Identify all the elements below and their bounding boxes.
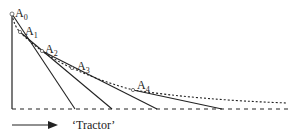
tractrix-curve-dotted [12,14,288,103]
direction-arrow-icon [12,121,58,129]
segment-a1 [20,32,112,109]
segment-a0 [12,14,75,109]
tractrix-diagram: A0 A1 A2 A3 A4 ‘Tractor’ [0,0,296,137]
point-a2 [40,49,43,52]
label-a4: A4 [137,78,150,94]
point-a4 [131,88,134,91]
point-a0 [10,12,14,16]
tractor-caption: ‘Tractor’ [72,118,115,132]
point-a3 [70,66,73,69]
label-a1: A1 [25,24,38,40]
point-a1 [18,30,21,33]
label-a3: A3 [77,59,90,75]
label-a2: A2 [45,42,58,58]
label-a0: A0 [15,6,28,22]
